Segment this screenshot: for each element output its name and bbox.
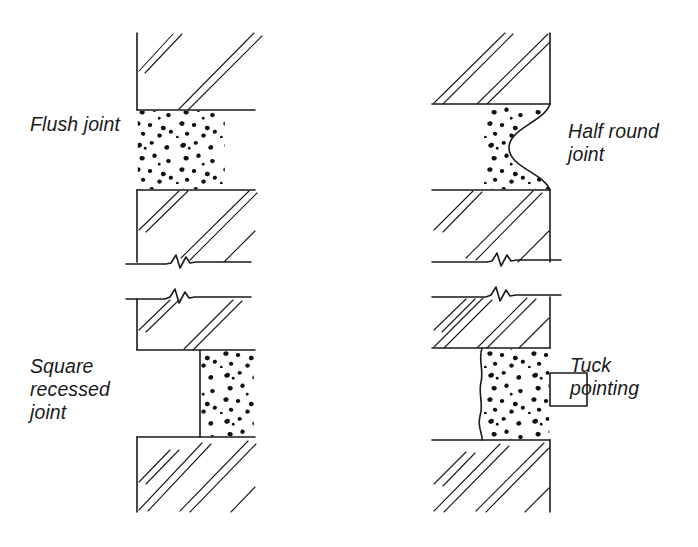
masonry-joint-diagram [0, 0, 698, 547]
label-square-recessed-joint: Square recessed joint [30, 355, 110, 424]
brick-hatching [434, 298, 549, 348]
break-line [432, 253, 561, 266]
label-flush-joint: Flush joint [30, 113, 120, 136]
brick-hatching [139, 191, 257, 262]
diagram-canvas: Flush joint Half round joint Square rece… [0, 0, 698, 547]
detail-tuck-pointing [432, 297, 587, 512]
brick-hatching [139, 33, 262, 110]
detail-flush-joint [137, 33, 262, 262]
brick-hatching [434, 191, 549, 262]
label-half-round-joint: Half round joint [568, 120, 659, 166]
break-line [432, 287, 561, 301]
break-line [126, 255, 251, 268]
brick-hatching [434, 443, 549, 512]
detail-half-round-joint [432, 33, 550, 262]
brick-hatching [139, 441, 256, 512]
detail-square-recessed-joint [137, 299, 256, 512]
brick-hatching [434, 33, 549, 104]
label-tuck-pointing: Tuck pointing [570, 354, 639, 400]
brick-hatching [139, 300, 242, 350]
mortar-fill [201, 351, 254, 436]
mortar-fill [479, 349, 549, 439]
mortar-fill [138, 111, 225, 189]
